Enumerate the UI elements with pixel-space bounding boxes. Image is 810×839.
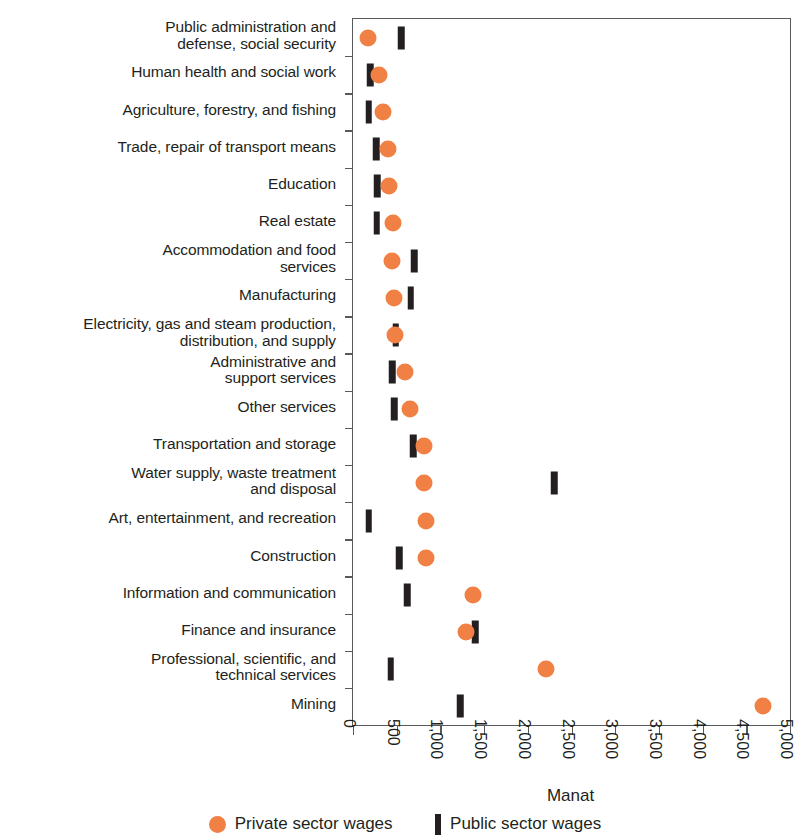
y-axis-tick xyxy=(345,353,353,354)
x-axis-tick-label: 5,000 xyxy=(777,719,795,759)
category-label: Professional, scientific, and technical … xyxy=(0,651,336,684)
category-label: Information and communication xyxy=(0,585,336,602)
category-label: Transportation and storage xyxy=(0,436,336,453)
x-axis-tick-label: 0 xyxy=(340,719,358,728)
private-sector-marker xyxy=(464,586,481,603)
category-label: Finance and insurance xyxy=(0,622,336,639)
category-label: Public administration and defense, socia… xyxy=(0,19,336,52)
plot-area xyxy=(352,18,791,726)
private-sector-marker xyxy=(754,698,771,715)
private-sector-marker xyxy=(385,289,402,306)
category-label: Other services xyxy=(0,399,336,416)
chart-legend: Private sector wages Public sector wages xyxy=(0,810,810,838)
x-axis-tick-label: 1,500 xyxy=(471,719,489,759)
category-label: Human health and social work xyxy=(0,64,336,81)
private-sector-marker xyxy=(359,29,376,46)
private-sector-marker xyxy=(401,401,418,418)
y-axis-tick xyxy=(345,56,353,57)
x-axis-tick-label: 1,000 xyxy=(427,719,445,759)
category-label: Art, entertainment, and recreation xyxy=(0,510,336,527)
x-axis-tick-label: 2,000 xyxy=(515,719,533,759)
x-axis-tick-label: 2,500 xyxy=(559,719,577,759)
x-axis-title: Manat xyxy=(352,786,789,806)
category-label: Water supply, waste treatment and dispos… xyxy=(0,465,336,498)
y-axis-tick xyxy=(345,316,353,317)
x-axis-tick-label: 3,000 xyxy=(602,719,620,759)
x-axis-tick-label: 4,000 xyxy=(690,719,708,759)
private-sector-marker xyxy=(418,549,435,566)
y-axis-tick xyxy=(345,502,353,503)
private-sector-marker xyxy=(380,178,397,195)
private-sector-marker xyxy=(538,661,555,678)
public-sector-marker xyxy=(374,175,381,198)
category-label: Electricity, gas and steam production, d… xyxy=(0,316,336,349)
public-sector-marker xyxy=(373,138,380,161)
private-sector-marker xyxy=(397,364,414,381)
public-sector-marker xyxy=(396,546,403,569)
public-sector-marker xyxy=(389,361,396,384)
y-axis-tick xyxy=(345,242,353,243)
category-label: Mining xyxy=(0,696,336,713)
private-sector-marker xyxy=(371,66,388,83)
y-axis-tick xyxy=(345,130,353,131)
category-labels-column: Public administration and defense, socia… xyxy=(0,0,344,724)
private-sector-marker xyxy=(375,103,392,120)
category-label: Agriculture, forestry, and fishing xyxy=(0,102,336,119)
x-axis-tick-label: 500 xyxy=(384,719,402,746)
private-sector-marker xyxy=(379,141,396,158)
y-axis-tick xyxy=(345,428,353,429)
private-sector-marker xyxy=(457,624,474,641)
y-axis-tick xyxy=(345,205,353,206)
public-sector-marker xyxy=(387,658,394,681)
public-sector-marker xyxy=(457,695,464,718)
private-sector-marker xyxy=(385,215,402,232)
category-label: Trade, repair of transport means xyxy=(0,139,336,156)
category-label: Real estate xyxy=(0,213,336,230)
x-axis-tick-label: 4,500 xyxy=(733,719,751,759)
y-axis-tick xyxy=(345,651,353,652)
public-sector-marker xyxy=(407,286,414,309)
y-axis-tick xyxy=(345,688,353,689)
private-sector-marker xyxy=(417,512,434,529)
x-axis-tick-label: 3,500 xyxy=(646,719,664,759)
bar-marker-icon xyxy=(435,814,442,835)
y-axis-tick xyxy=(345,614,353,615)
y-axis-tick xyxy=(345,539,353,540)
public-sector-marker xyxy=(365,100,372,123)
legend-label-public: Public sector wages xyxy=(450,814,601,834)
wages-by-sector-chart: Public administration and defense, socia… xyxy=(0,0,810,839)
private-sector-marker xyxy=(415,475,432,492)
category-label: Manufacturing xyxy=(0,287,336,304)
y-axis-tick xyxy=(345,391,353,392)
public-sector-marker xyxy=(551,472,558,495)
public-sector-marker xyxy=(373,212,380,235)
y-axis-tick xyxy=(345,279,353,280)
legend-label-private: Private sector wages xyxy=(235,814,393,834)
category-label: Administrative and support services xyxy=(0,354,336,387)
y-axis-tick xyxy=(345,576,353,577)
public-sector-marker xyxy=(404,583,411,606)
public-sector-marker xyxy=(411,249,418,272)
private-sector-marker xyxy=(386,326,403,343)
category-label: Construction xyxy=(0,548,336,565)
legend-item-public: Public sector wages xyxy=(435,814,602,835)
public-sector-marker xyxy=(398,26,405,49)
private-sector-marker xyxy=(415,438,432,455)
public-sector-marker xyxy=(391,398,398,421)
y-axis-tick xyxy=(345,168,353,169)
category-label: Accommodation and food services xyxy=(0,242,336,275)
y-axis-tick xyxy=(345,465,353,466)
category-label: Education xyxy=(0,176,336,193)
private-sector-marker xyxy=(384,252,401,269)
y-axis-tick xyxy=(345,93,353,94)
legend-item-private: Private sector wages xyxy=(209,814,393,834)
public-sector-marker xyxy=(365,509,372,532)
circle-marker-icon xyxy=(209,816,226,833)
